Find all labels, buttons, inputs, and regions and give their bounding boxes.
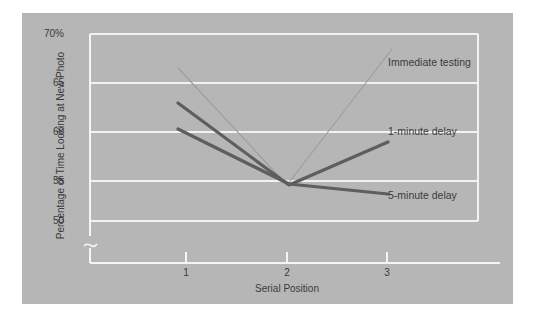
plot-area: [0, 0, 535, 323]
chart-figure: 70% 65 60 55 50 1 2 3 Percentage of Time…: [0, 0, 535, 323]
series-label-1-minute-delay: 1-minute delay: [388, 126, 457, 137]
series-line-5-minute-delay: [178, 129, 388, 194]
y-tick-label-70: 70%: [24, 29, 64, 39]
series-label-5-minute-delay: 5-minute delay: [388, 190, 457, 201]
x-tick-label-3: 3: [372, 268, 402, 278]
y-axis-title: Percentage of Time Looking at New Photo: [55, 46, 66, 246]
series-label-immediate-testing: Immediate testing: [388, 57, 471, 68]
y-axis-break-icon: [84, 244, 97, 246]
x-tick-label-1: 1: [171, 268, 201, 278]
x-axis-title: Serial Position: [227, 283, 347, 294]
series-line-immediate-testing: [178, 49, 392, 185]
x-ticks: [186, 252, 387, 263]
x-tick-label-2: 2: [272, 268, 302, 278]
